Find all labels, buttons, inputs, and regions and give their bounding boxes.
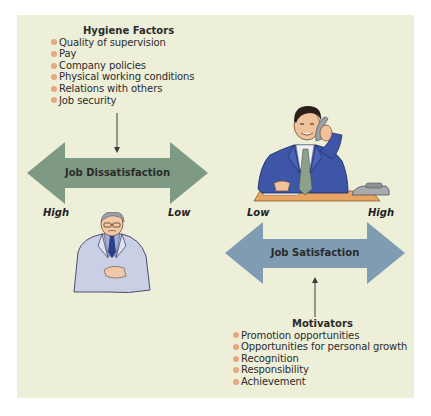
dissatisfaction-low-label: Low [168,207,190,218]
motivators-title: Motivators [233,318,407,330]
bullet-icon [51,39,57,45]
list-item: Responsibility [233,364,407,376]
satisfaction-high-label: High [368,207,394,218]
older-man-in-lab-coat-icon [68,212,154,294]
list-item: Opportunities for personal growth [233,341,407,353]
list-item: Promotion opportunities [233,330,407,342]
list-item: Physical working conditions [51,71,194,83]
list-item: Relations with others [51,83,194,95]
bullet-icon [233,379,239,385]
bullet-icon [233,367,239,373]
bullet-icon [233,356,239,362]
bullet-icon [51,86,57,92]
bullet-icon [233,344,239,350]
list-item: Job security [51,95,194,107]
list-item: Recognition [233,353,407,365]
smiling-businessman-on-phone-icon [252,103,392,203]
list-item: Achievement [233,376,407,388]
dissatisfaction-high-label: High [43,207,69,218]
hygiene-factors-list: Hygiene Factors Quality of supervision P… [51,25,194,106]
list-item: Pay [51,48,194,60]
bullet-icon [233,332,239,338]
job-dissatisfaction-label: Job Dissatisfaction [65,167,170,178]
bullet-icon [51,97,57,103]
list-item: Company policies [51,60,194,72]
job-satisfaction-label: Job Satisfaction [263,247,367,258]
satisfaction-low-label: Low [247,207,269,218]
list-item: Quality of supervision [51,37,194,49]
hygiene-factors-title: Hygiene Factors [51,25,194,37]
up-pointer-arrow-icon [310,275,320,317]
bullet-icon [51,63,57,69]
bullet-icon [51,51,57,57]
motivators-list: Motivators Promotion opportunities Oppor… [233,318,407,388]
bullet-icon [51,74,57,80]
